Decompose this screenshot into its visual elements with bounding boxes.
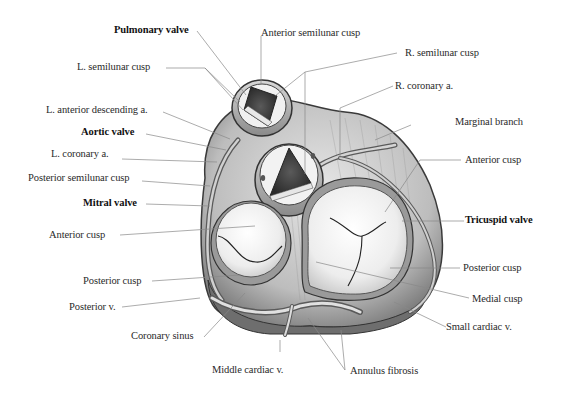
label-l-coronary-a: L. coronary a. [51, 148, 109, 160]
mitral-valve-art [211, 201, 291, 285]
label-medial-cusp: Medial cusp [472, 293, 523, 305]
label-pulmonary-valve: Pulmonary valve [114, 24, 189, 36]
label-r-coronary-a: R. coronary a. [395, 80, 453, 92]
heart-valves-illustration: Pulmonary valve Anterior semilunar cusp … [0, 0, 566, 396]
label-posterior-cusp-mitral: Posterior cusp [83, 275, 141, 287]
label-posterior-v: Posterior v. [69, 301, 116, 313]
label-posterior-semilunar-cusp: Posterior semilunar cusp [28, 172, 129, 184]
label-mitral-valve: Mitral valve [83, 197, 137, 209]
label-annulus-fibrosis: Annulus fibrosis [350, 365, 418, 377]
label-r-semilunar-cusp: R. semilunar cusp [405, 47, 479, 59]
label-anterior-cusp-tricuspid: Anterior cusp [465, 154, 521, 166]
label-tricuspid-valve: Tricuspid valve [465, 214, 532, 226]
label-posterior-cusp-tricuspid: Posterior cusp [463, 262, 521, 274]
label-l-anterior-descending-a: L. anterior descending a. [46, 104, 148, 116]
label-anterior-semilunar-cusp: Anterior semilunar cusp [261, 27, 360, 39]
label-anterior-cusp-mitral: Anterior cusp [49, 229, 105, 241]
label-small-cardiac-v: Small cardiac v. [446, 321, 512, 333]
tricuspid-valve-art [302, 178, 413, 301]
label-middle-cardiac-v: Middle cardiac v. [212, 364, 283, 376]
label-l-semilunar-cusp: L. semilunar cusp [77, 61, 150, 73]
label-coronary-sinus: Coronary sinus [131, 330, 193, 342]
label-marginal-branch: Marginal branch [455, 116, 523, 128]
label-aortic-valve: Aortic valve [81, 126, 134, 138]
